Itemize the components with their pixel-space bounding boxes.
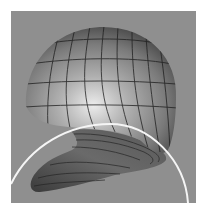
surface-figure <box>0 0 208 213</box>
figure-frame <box>0 0 208 213</box>
